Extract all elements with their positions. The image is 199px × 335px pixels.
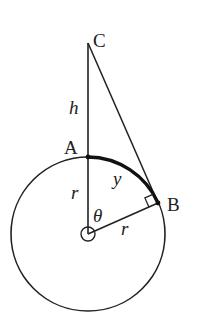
label-h: h xyxy=(69,97,79,118)
label-c: C xyxy=(93,30,106,51)
circle-tangent-diagram: C h A r y θ r B xyxy=(0,0,199,335)
label-r-radius: r xyxy=(121,218,129,239)
label-a: A xyxy=(64,137,78,158)
label-b: B xyxy=(167,194,180,215)
label-theta: θ xyxy=(93,205,102,226)
label-y: y xyxy=(111,168,122,189)
point-b-dot xyxy=(156,201,161,206)
tangent-line-c-to-b xyxy=(88,43,158,203)
label-r-vertical: r xyxy=(71,182,79,203)
point-a-dot xyxy=(86,155,91,160)
